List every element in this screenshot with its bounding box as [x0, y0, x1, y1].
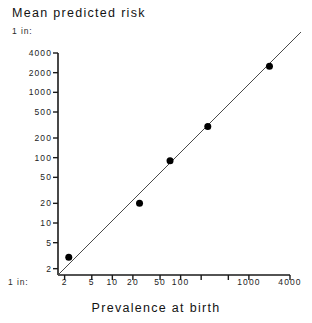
data-point-1 [136, 200, 143, 207]
plot-canvas [0, 0, 312, 323]
identity-reference-line [58, 32, 301, 275]
data-point-0 [65, 254, 72, 261]
data-point-2 [167, 157, 174, 164]
data-point-3 [204, 123, 211, 130]
chart-figure: Mean predicted risk 1 in: 1 in: Prevalen… [0, 0, 312, 323]
data-point-4 [266, 63, 273, 70]
